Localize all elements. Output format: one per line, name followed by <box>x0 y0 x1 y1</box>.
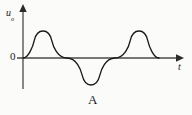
x-axis-label: t <box>178 62 181 72</box>
y-axis-label-subscript: o <box>11 16 14 22</box>
figure-caption: A <box>88 93 97 106</box>
y-axis-label: uo <box>6 8 14 20</box>
figure-panel: uo 0 t A <box>0 0 192 115</box>
origin-label: 0 <box>10 51 16 62</box>
y-axis-arrowhead <box>19 4 26 12</box>
